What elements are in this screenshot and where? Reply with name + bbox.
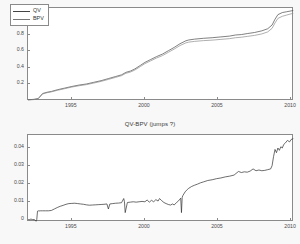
- x-tick-label: 1995: [59, 224, 83, 229]
- line-chart-qv-bpv: [28, 8, 294, 101]
- x-tick-mark: [71, 97, 72, 100]
- y-tick-label: 0.04: [2, 144, 24, 149]
- x-tick-mark: [71, 218, 72, 221]
- y-tick-mark: [27, 83, 30, 84]
- y-tick-mark: [27, 201, 30, 202]
- x-tick-label: 2005: [205, 224, 229, 229]
- chart-panel-top: 0.20.40.60.81 1995200020052010 QV BPV: [0, 0, 300, 116]
- y-tick-label: 0.02: [2, 180, 24, 185]
- y-tick-label: 0.4: [2, 64, 24, 69]
- x-tick-label: 1995: [59, 103, 83, 108]
- y-tick-label: 0.6: [2, 47, 24, 52]
- series-line-bpv: [28, 13, 293, 100]
- legend-label-qv: QV: [33, 8, 41, 13]
- y-tick-mark: [27, 67, 30, 68]
- x-tick-mark: [217, 97, 218, 100]
- plot-area-bottom: [27, 134, 293, 221]
- x-tick-mark: [144, 218, 145, 221]
- x-tick-mark: [290, 218, 291, 221]
- legend-label-bpv: BPV: [33, 16, 44, 21]
- x-tick-mark: [290, 97, 291, 100]
- legend-line-qv-icon: [13, 11, 30, 12]
- figure-container: 0.20.40.60.81 1995200020052010 QV BPV QV…: [0, 0, 300, 244]
- x-tick-label: 2000: [132, 103, 156, 108]
- y-tick-mark: [27, 34, 30, 35]
- chart-legend-top: QV BPV: [10, 4, 49, 26]
- chart-panel-bottom: QV-BPV (jumps ?) 00.010.020.030.04 19952…: [0, 116, 300, 244]
- y-tick-mark: [27, 165, 30, 166]
- y-tick-mark: [27, 219, 30, 220]
- x-tick-mark: [144, 97, 145, 100]
- chart-title-bottom: QV-BPV (jumps ?): [0, 121, 300, 127]
- x-tick-label: 2010: [278, 224, 300, 229]
- x-tick-label: 2000: [132, 224, 156, 229]
- y-tick-label: 0: [2, 216, 24, 221]
- x-tick-label: 2005: [205, 103, 229, 108]
- y-tick-mark: [27, 147, 30, 148]
- legend-entry-bpv: BPV: [13, 15, 44, 23]
- legend-line-bpv-icon: [13, 19, 30, 20]
- y-tick-label: 0.01: [2, 198, 24, 203]
- plot-area-top: [27, 7, 293, 100]
- series-line-qv: [28, 10, 293, 99]
- series-line-qv-bpv: [28, 139, 293, 222]
- x-tick-label: 2010: [278, 103, 300, 108]
- y-tick-label: 0.03: [2, 162, 24, 167]
- y-tick-mark: [27, 183, 30, 184]
- y-tick-label: 0.2: [2, 80, 24, 85]
- x-tick-mark: [217, 218, 218, 221]
- y-tick-mark: [27, 50, 30, 51]
- line-chart-qv-minus-bpv: [28, 135, 294, 222]
- y-tick-label: 0.8: [2, 31, 24, 36]
- legend-entry-qv: QV: [13, 7, 44, 15]
